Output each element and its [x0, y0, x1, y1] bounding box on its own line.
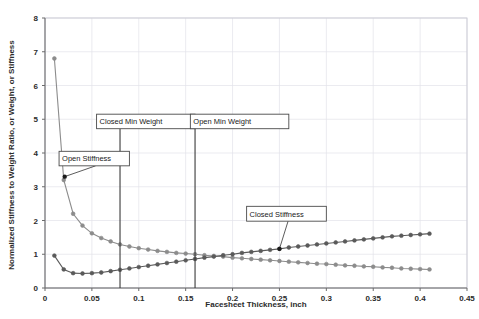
data-point	[409, 267, 413, 271]
data-point	[418, 232, 422, 236]
data-point	[156, 262, 160, 266]
data-point	[259, 249, 263, 253]
stiffness-weight-chart: 00.050.10.150.20.250.30.350.40.45 012345…	[0, 0, 479, 319]
data-point	[428, 268, 432, 272]
x-tick-label: 0.1	[133, 294, 145, 303]
x-axis-title: Facesheet Thickness, inch	[205, 300, 306, 309]
data-point	[165, 261, 169, 265]
y-tick-label: 1	[34, 250, 39, 259]
data-point	[174, 260, 178, 264]
y-tick-label: 7	[34, 48, 39, 57]
data-point	[99, 271, 103, 275]
data-point	[428, 232, 432, 236]
data-point	[249, 257, 253, 261]
data-point	[240, 251, 244, 255]
data-point	[231, 252, 235, 256]
data-point	[165, 250, 169, 254]
annotation-label-closed-stiffness: Closed Stiffness	[250, 210, 304, 219]
y-tick-label: 6	[34, 82, 39, 91]
data-point	[137, 246, 141, 250]
x-tick-label: 0.3	[321, 294, 333, 303]
data-point	[418, 267, 422, 271]
data-point	[137, 265, 141, 269]
y-tick-label: 3	[34, 183, 39, 192]
data-point	[127, 267, 131, 271]
data-point	[109, 240, 113, 244]
data-point	[99, 236, 103, 240]
data-point	[371, 236, 375, 240]
data-point	[184, 258, 188, 262]
annotation-anchor-closed-stiffness	[277, 247, 281, 251]
y-axis-title: Normalized Stiffness to Weight Ratio, or…	[7, 40, 16, 270]
data-point	[315, 262, 319, 266]
data-point	[268, 258, 272, 262]
data-point	[399, 234, 403, 238]
annotation-layer: Closed Min WeightOpen Min WeightOpen Sti…	[59, 114, 326, 251]
data-point	[71, 212, 75, 216]
x-tick-label: 0	[43, 294, 48, 303]
y-tick-label: 8	[34, 14, 39, 23]
data-point	[287, 260, 291, 264]
data-point	[109, 269, 113, 273]
y-tick-label: 2	[34, 217, 39, 226]
data-point	[324, 242, 328, 246]
data-point	[52, 254, 56, 258]
data-point	[296, 260, 300, 264]
data-point	[259, 258, 263, 262]
data-point	[146, 264, 150, 268]
data-point	[353, 239, 357, 243]
data-point	[381, 266, 385, 270]
data-point	[409, 233, 413, 237]
data-point	[127, 245, 131, 249]
data-point	[334, 263, 338, 267]
data-point	[240, 256, 244, 260]
y-tick-label: 4	[34, 149, 39, 158]
data-point	[174, 251, 178, 255]
data-point	[156, 249, 160, 253]
data-point	[90, 271, 94, 275]
y-tick-label: 5	[34, 115, 39, 124]
chart-container: 00.050.10.150.20.250.30.350.40.45 012345…	[0, 0, 479, 319]
y-tick-label: 0	[34, 284, 39, 293]
x-tick-label: 0.35	[365, 294, 381, 303]
data-point	[381, 235, 385, 239]
leader-line-open-stiffness	[65, 166, 96, 177]
data-point	[334, 241, 338, 245]
data-point	[296, 245, 300, 249]
data-point	[184, 252, 188, 256]
data-point	[287, 246, 291, 250]
data-point	[203, 256, 207, 260]
data-point	[221, 253, 225, 257]
data-point	[353, 264, 357, 268]
data-point	[278, 259, 282, 263]
data-point	[306, 261, 310, 265]
data-point	[62, 268, 66, 272]
y-axis-ticks: 012345678	[34, 14, 45, 293]
x-tick-label: 0.45	[459, 294, 475, 303]
data-point	[343, 240, 347, 244]
data-point	[362, 265, 366, 269]
data-point	[371, 265, 375, 269]
annotation-label-closed-min-weight: Closed Min Weight	[100, 117, 164, 126]
annotation-anchor-open-stiffness	[62, 174, 66, 178]
data-point	[315, 243, 319, 247]
data-point	[306, 244, 310, 248]
data-point	[399, 267, 403, 271]
annotation-label-open-stiffness: Open Stiffness	[62, 154, 111, 163]
data-point	[90, 231, 94, 235]
data-point	[146, 248, 150, 252]
annotation-label-open-min-weight: Open Min Weight	[193, 117, 252, 126]
data-point	[390, 266, 394, 270]
data-point	[268, 248, 272, 252]
data-point	[212, 255, 216, 259]
x-tick-label: 0.05	[84, 294, 100, 303]
data-point	[390, 234, 394, 238]
x-tick-label: 0.15	[178, 294, 194, 303]
data-point	[81, 272, 85, 276]
leader-line-closed-stiffness	[279, 221, 288, 249]
data-point	[249, 250, 253, 254]
data-point	[343, 263, 347, 267]
data-point	[362, 238, 366, 242]
data-point	[324, 262, 328, 266]
data-point	[52, 57, 56, 61]
